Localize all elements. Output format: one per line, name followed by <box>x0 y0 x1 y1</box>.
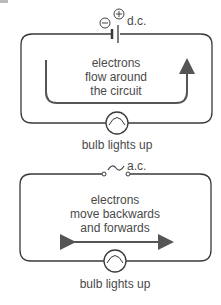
dc-description-line-2: flow around <box>66 70 166 84</box>
ac-bulb-label: bulb lights up <box>65 277 165 291</box>
positive-terminal-icon <box>114 9 124 19</box>
bulb-icon <box>106 112 128 134</box>
battery-icon <box>112 25 118 43</box>
negative-terminal-icon <box>100 18 110 28</box>
ac-description-line-2: move backwards <box>60 207 170 221</box>
dc-description-line-1: electrons <box>66 56 166 70</box>
sine-wave-icon <box>108 166 124 170</box>
ac-description-line-3: and forwards <box>60 221 170 235</box>
circuit-diagrams <box>0 0 221 305</box>
ac-terminal-icon <box>102 172 130 176</box>
dc-label: d.c. <box>127 14 146 28</box>
dc-description-line-3: the circuit <box>66 84 166 98</box>
ac-label: a.c. <box>127 159 146 173</box>
ac-description-line-1: electrons <box>60 193 170 207</box>
dc-bulb-label: bulb lights up <box>67 138 167 152</box>
bulb-icon <box>104 250 126 272</box>
